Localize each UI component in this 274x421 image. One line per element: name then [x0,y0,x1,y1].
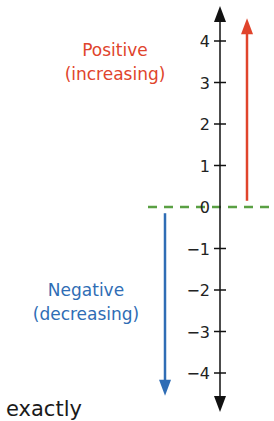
footer-word: exactly [6,397,82,421]
positive-arrowhead [241,18,253,34]
tick-label: 1 [200,157,210,176]
tick-label: −3 [186,323,210,342]
number-line-diagram: 43210−1−2−3−4 Positive (increasing) Nega… [0,0,274,421]
tick-label: 2 [200,115,210,134]
positive-label-line2: (increasing) [65,64,166,84]
tick-label: −4 [186,364,210,383]
tick-label: 4 [200,32,210,51]
negative-arrowhead [159,380,171,396]
axis-down-arrowhead [214,396,226,412]
positive-label-line1: Positive [82,40,148,60]
negative-label-line1: Negative [48,280,124,300]
tick-label: −1 [186,240,210,259]
axis-up-arrowhead [214,6,226,22]
tick-label: 3 [200,74,210,93]
negative-label-line2: (decreasing) [33,304,140,324]
tick-label: 0 [200,198,210,217]
tick-label: −2 [186,281,210,300]
